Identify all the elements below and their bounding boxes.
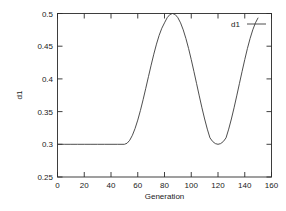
- legend-label-d1: d1: [231, 20, 240, 29]
- data-series-d1: [58, 14, 259, 145]
- y-axis-title: d1: [15, 90, 24, 99]
- x-tick-label: 80: [160, 181, 169, 190]
- x-tick-label: 100: [185, 181, 199, 190]
- y-tick-label: 0.25: [37, 173, 53, 182]
- y-tick-labels: 0.25 0.3 0.35 0.4 0.45 0.5: [37, 10, 53, 183]
- y-tick-marks: [58, 14, 272, 178]
- y-tick-label: 0.4: [42, 75, 54, 84]
- chart-page: 0.25 0.3 0.35 0.4 0.45 0.5 0 20 40 60 80…: [0, 0, 286, 211]
- y-tick-label: 0.3: [42, 140, 54, 149]
- x-tick-label: 0: [55, 181, 60, 190]
- plot-frame: [58, 14, 272, 178]
- x-tick-label: 60: [133, 181, 142, 190]
- y-tick-label: 0.5: [42, 10, 54, 19]
- x-tick-label: 120: [211, 181, 225, 190]
- y-tick-label: 0.45: [37, 42, 53, 51]
- x-tick-label: 40: [107, 181, 116, 190]
- x-tick-labels: 0 20 40 60 80 100 120 140 160: [55, 181, 278, 190]
- x-tick-label: 160: [265, 181, 279, 190]
- legend: d1: [231, 20, 266, 29]
- x-tick-label: 140: [238, 181, 252, 190]
- x-axis-title: Generation: [145, 192, 185, 201]
- x-tick-label: 20: [80, 181, 89, 190]
- x-tick-marks: [58, 14, 272, 178]
- y-tick-label: 0.35: [37, 108, 53, 117]
- line-chart: 0.25 0.3 0.35 0.4 0.45 0.5 0 20 40 60 80…: [0, 0, 286, 211]
